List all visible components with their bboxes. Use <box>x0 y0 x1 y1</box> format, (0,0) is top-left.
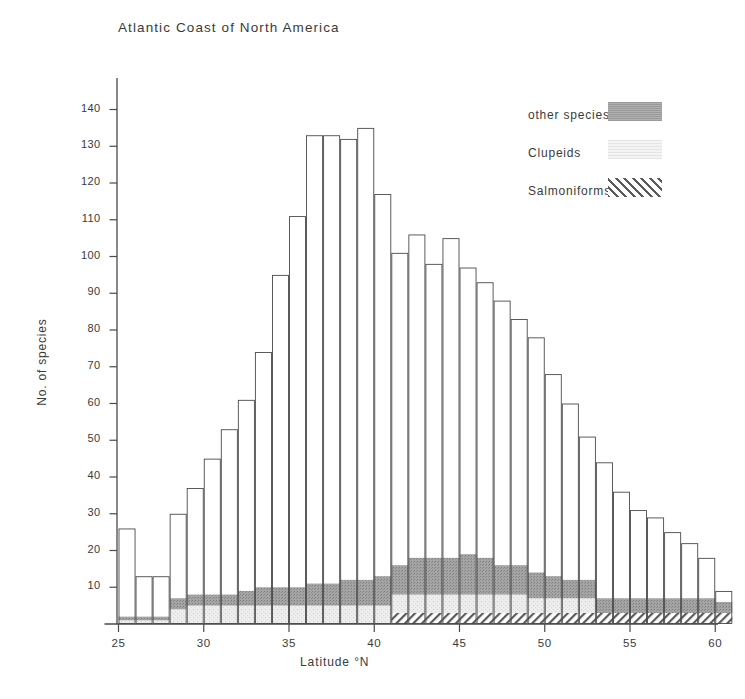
y-axis-tick-label: 140 <box>67 102 101 114</box>
bar-segment <box>238 606 255 624</box>
bar-segment <box>511 565 528 594</box>
bar-segment <box>681 598 698 613</box>
bar-segment <box>340 606 357 624</box>
bar-segment <box>562 580 579 598</box>
bar-segment <box>562 598 579 613</box>
bar-segment <box>460 613 477 624</box>
bar-segment <box>391 613 408 624</box>
bar-segment <box>494 595 511 613</box>
bar-outline <box>136 577 152 624</box>
bar-outline <box>375 195 391 624</box>
bar-segment <box>545 598 562 613</box>
bar-segment <box>698 598 715 613</box>
bar-segment <box>238 591 255 606</box>
y-axis-tick-label: 70 <box>67 359 101 371</box>
bar-segment <box>289 587 306 605</box>
y-axis-tick-label: 100 <box>67 249 101 261</box>
bar-segment <box>528 613 545 624</box>
bar-segment <box>477 595 494 613</box>
legend-swatch-salmoniforms <box>608 178 662 197</box>
y-axis-tick-label: 110 <box>67 212 101 224</box>
bar-segment <box>545 576 562 598</box>
y-axis-tick-label: 20 <box>67 543 101 555</box>
x-axis-title: Latitude °N <box>300 655 369 669</box>
bar-segment <box>323 584 340 606</box>
x-axis-tick-label: 35 <box>269 637 309 649</box>
bar-segment <box>408 595 425 613</box>
bar-segment <box>494 565 511 594</box>
y-axis-tick-label: 130 <box>67 138 101 150</box>
legend-item-clupeids: Clupeids <box>528 138 708 176</box>
bar-segment <box>579 613 596 624</box>
bar-segment <box>170 598 187 609</box>
x-axis-tick-label: 55 <box>610 637 650 649</box>
bar-outline <box>341 139 357 623</box>
bar-segment <box>272 587 289 605</box>
bar-segment <box>715 602 732 613</box>
bar-outline <box>119 529 135 624</box>
bar-outline <box>221 430 237 624</box>
bar-outline <box>324 136 340 624</box>
x-axis-tick-label: 40 <box>354 637 394 649</box>
bar-outline <box>358 128 374 623</box>
bar-outline <box>153 577 169 624</box>
y-axis-tick-label: 10 <box>67 579 101 591</box>
bar-segment <box>664 613 681 624</box>
x-axis-tick-label: 25 <box>99 637 139 649</box>
legend-swatch-clupeids <box>608 140 662 159</box>
legend-label-salmoniforms: Salmoniforms <box>528 184 611 198</box>
y-axis-tick-label: 40 <box>67 469 101 481</box>
bar-segment <box>494 613 511 624</box>
chart-container: Atlantic Coast of North America <box>0 0 745 699</box>
bar-segment <box>340 580 357 606</box>
bar-segment <box>153 617 170 621</box>
bar-segment <box>357 606 374 624</box>
bar-segment <box>647 613 664 624</box>
bar-segment <box>187 606 204 624</box>
y-axis-tick-label: 30 <box>67 506 101 518</box>
legend-swatch-other-species <box>608 102 662 121</box>
bar-segment <box>306 584 323 606</box>
bar-outline <box>307 136 323 624</box>
bar-segment <box>442 558 459 595</box>
bar-segment <box>664 598 681 613</box>
bar-outline <box>255 353 271 624</box>
x-axis-tick-label: 30 <box>184 637 224 649</box>
legend-label-other-species: other species <box>528 108 610 122</box>
y-axis-tick-label: 120 <box>67 175 101 187</box>
bar-segment <box>477 558 494 595</box>
bar-segment <box>596 598 613 613</box>
bar-segment <box>442 613 459 624</box>
bar-segment <box>374 606 391 624</box>
bar-segment <box>408 558 425 595</box>
bar-segment <box>391 595 408 613</box>
bar-segment <box>306 606 323 624</box>
bar-segment <box>562 613 579 624</box>
bar-segment <box>681 613 698 624</box>
bar-segment <box>613 598 630 613</box>
bar-segment <box>187 595 204 606</box>
bar-segment <box>391 565 408 594</box>
bar-segment <box>255 587 272 605</box>
y-axis-tick-label: 90 <box>67 285 101 297</box>
bar-segment <box>477 613 494 624</box>
bar-segment <box>204 606 221 624</box>
bar-segment <box>528 573 545 599</box>
y-axis-tick-label: 50 <box>67 432 101 444</box>
bar-segment <box>442 595 459 613</box>
bar-segment <box>715 613 732 624</box>
bar-segment <box>425 595 442 613</box>
bar-segment <box>630 598 647 613</box>
bar-segment <box>579 580 596 598</box>
legend-item-salmoniforms: Salmoniforms <box>528 176 708 214</box>
bar-segment <box>511 613 528 624</box>
bar-segment <box>528 598 545 613</box>
legend-label-clupeids: Clupeids <box>528 146 581 160</box>
bar-segment <box>357 580 374 606</box>
bar-segment <box>613 613 630 624</box>
bar-segment <box>221 595 238 606</box>
bar-segment <box>289 606 306 624</box>
bar-segment <box>425 558 442 595</box>
bar-segment <box>579 598 596 613</box>
bar-outline <box>272 275 288 623</box>
